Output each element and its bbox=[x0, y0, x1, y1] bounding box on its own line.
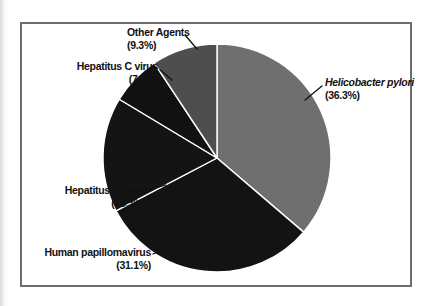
slice-name: Human papillomavirus bbox=[44, 246, 151, 259]
slice-label-other-agents: Other Agents (9.3%) bbox=[127, 26, 190, 52]
slice-name: Helicobacter pylori bbox=[325, 76, 414, 89]
slice-label-hepatitus-c-virus: Hepatitus C virus (7.1%) bbox=[77, 60, 158, 86]
slice-percent: (31.1%) bbox=[44, 259, 151, 272]
slice-percent: (36.3%) bbox=[325, 89, 414, 102]
slice-percent: (16.3%) bbox=[65, 197, 146, 210]
slice-name: Hepatitus C virus bbox=[77, 60, 158, 73]
slice-percent: (9.3%) bbox=[127, 39, 190, 52]
slice-label-human-papillomavirus: Human papillomavirus (31.1%) bbox=[44, 246, 151, 272]
slice-percent: (7.1%) bbox=[77, 73, 158, 86]
slice-name: Hepatitus B virus bbox=[65, 184, 146, 197]
slice-label-helicobacter-pylori: Helicobacter pylori (36.3%) bbox=[325, 76, 414, 102]
slice-name: Other Agents bbox=[127, 26, 190, 39]
slice-label-hepatitus-b-virus: Hepatitus B virus (16.3%) bbox=[65, 184, 146, 210]
figure-canvas: Helicobacter pylori (36.3%) Human papill… bbox=[0, 0, 432, 306]
